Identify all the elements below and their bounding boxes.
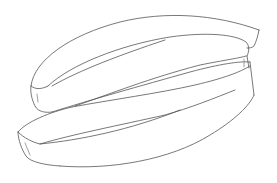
upper-loop-inner-edge [48, 34, 249, 86]
band-loop-illustration [0, 0, 277, 183]
lower-loop-bottom-edge [60, 95, 254, 167]
crossing-band-upper-edge [52, 62, 250, 112]
upper-band-left-end [31, 86, 52, 112]
upper-band-left-crease [37, 94, 38, 102]
upper-loop-inner-edge-2 [52, 40, 165, 86]
band-end-flap [247, 30, 259, 48]
upper-band-left-top [31, 86, 48, 89]
lower-loop-left-crease [25, 143, 30, 155]
upper-loop-outer-edge [31, 15, 259, 86]
lower-loop-outer-top [18, 107, 72, 132]
right-edge-outer [250, 62, 254, 95]
drawing-canvas [0, 0, 277, 183]
crossing-band-lower-edge [72, 66, 250, 107]
